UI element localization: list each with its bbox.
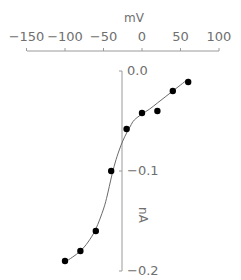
data-point [154,108,160,114]
y-axis: 0.0−0.1−0.2 nA [119,63,159,278]
data-point [77,248,83,254]
y-tick-label: −0.2 [127,263,159,278]
data-point [108,168,114,174]
x-tick-label: −50 [90,29,117,44]
y-axis-title: nA [136,207,150,224]
iv-curve-chart: mV −150−100−50050100 0.0−0.1−0.2 nA [0,0,241,280]
data-point [62,258,68,264]
data-point [139,110,145,116]
x-axis-title: mV [124,11,145,25]
x-tick-label: 100 [207,29,232,44]
x-tick-labels: −150−100−50050100 [9,29,232,44]
x-tick-label: −100 [47,29,83,44]
y-tick-labels: 0.0−0.1−0.2 [127,63,159,278]
y-tick-label: −0.1 [127,163,159,178]
y-tick-label: 0.0 [127,63,148,78]
data-point [185,79,191,85]
data-point [93,228,99,234]
data-point [170,88,176,94]
data-point [123,126,129,132]
x-axis: mV −150−100−50050100 [9,11,232,51]
x-tick-label: 50 [172,29,189,44]
x-tick-label: −150 [9,29,45,44]
x-tick-label: 0 [138,29,146,44]
